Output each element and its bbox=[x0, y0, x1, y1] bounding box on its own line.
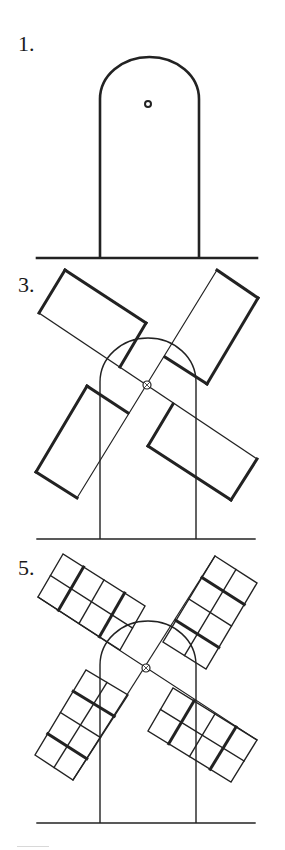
sail-outer-edge bbox=[39, 270, 65, 313]
sail-top-left bbox=[39, 270, 146, 367]
sail-inner-edge bbox=[165, 357, 207, 384]
sail-long-edge bbox=[36, 386, 87, 472]
step-3-label: 3. bbox=[18, 274, 35, 296]
sail-outer-edge bbox=[231, 459, 257, 500]
step-5-figure bbox=[35, 554, 257, 823]
sail-top-right bbox=[163, 556, 257, 669]
sail-bottom-left bbox=[36, 386, 128, 498]
sail-bottom-left bbox=[35, 670, 128, 780]
sail-top-right bbox=[165, 270, 258, 384]
step-1-label: 1. bbox=[18, 33, 35, 55]
sail-outer-edge bbox=[36, 472, 77, 498]
tower-outline bbox=[100, 57, 199, 258]
step-1-figure bbox=[37, 57, 257, 258]
sail-top-left bbox=[38, 554, 145, 650]
windmill-drawing-steps bbox=[0, 0, 285, 850]
sail-inner-edge bbox=[148, 404, 173, 446]
sail-bottom-right bbox=[148, 688, 257, 782]
hub-circle bbox=[145, 101, 151, 107]
sail-outer-edge bbox=[217, 270, 258, 298]
footer-rule bbox=[17, 846, 49, 847]
sail-long-edge bbox=[148, 446, 231, 500]
sail-long-edge bbox=[207, 298, 258, 384]
sail-bottom-right bbox=[148, 404, 257, 500]
step-5-label: 5. bbox=[18, 557, 35, 579]
sail-long-edge bbox=[65, 270, 146, 323]
step-3-figure bbox=[36, 270, 258, 539]
sail-inner-edge bbox=[87, 386, 128, 413]
sail-inner-edge bbox=[120, 323, 146, 367]
